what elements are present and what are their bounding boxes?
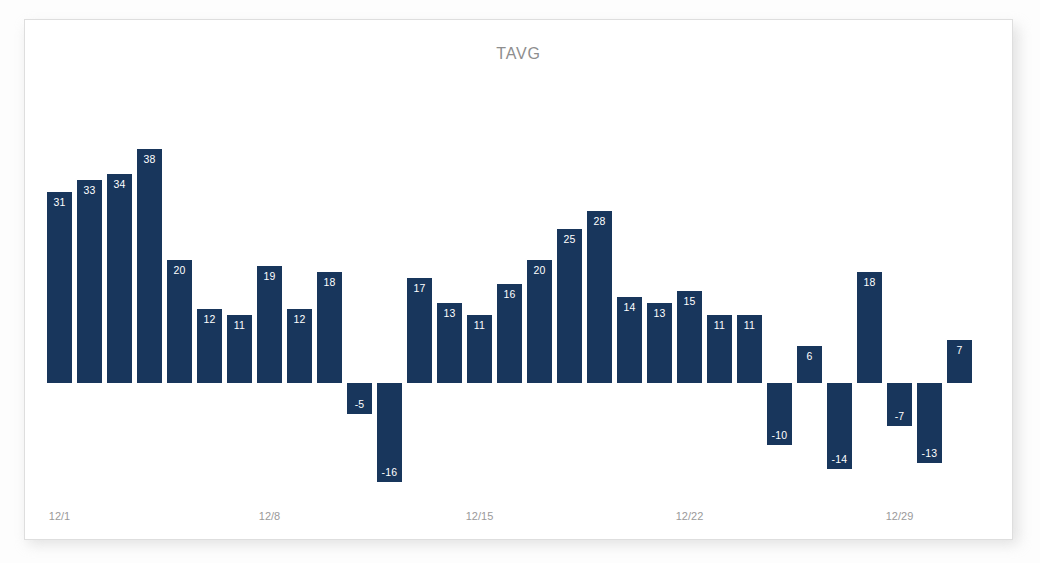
bar-value-label: 31: [47, 196, 72, 208]
bar-value-label: 38: [137, 153, 162, 165]
bar[interactable]: [77, 180, 102, 383]
bar-value-label: -16: [377, 466, 402, 478]
bar-value-label: 34: [107, 178, 132, 190]
bar[interactable]: [257, 266, 282, 383]
bar-value-label: 13: [647, 307, 672, 319]
bar-value-label: 25: [557, 233, 582, 245]
bar-value-label: 18: [857, 276, 882, 288]
bar-value-label: -7: [887, 410, 912, 422]
bar[interactable]: [557, 229, 582, 383]
bar-value-label: -10: [767, 429, 792, 441]
chart-card: TAVG 31333438201211191218-5-161713111620…: [24, 19, 1013, 540]
bar[interactable]: [107, 174, 132, 383]
screenshot-canvas: TAVG 31333438201211191218-5-161713111620…: [0, 0, 1040, 563]
bar-value-label: 28: [587, 215, 612, 227]
bar-value-label: 12: [197, 313, 222, 325]
bar-value-label: 11: [707, 319, 732, 331]
bar[interactable]: [47, 192, 72, 383]
bar-value-label: 6: [797, 350, 822, 362]
bar-value-label: -14: [827, 453, 852, 465]
bar-value-label: 7: [947, 344, 972, 356]
bar-value-label: 19: [257, 270, 282, 282]
bar-value-label: 16: [497, 288, 522, 300]
bar-value-label: -13: [917, 447, 942, 459]
bar[interactable]: [857, 272, 882, 383]
x-axis-tick-label: 12/8: [240, 510, 300, 522]
bar-chart-plot: 31333438201211191218-5-16171311162025281…: [25, 20, 1014, 541]
bar-value-label: 14: [617, 301, 642, 313]
bar-value-label: 15: [677, 295, 702, 307]
bar[interactable]: [167, 260, 192, 383]
bar-value-label: 13: [437, 307, 462, 319]
bar-value-label: 18: [317, 276, 342, 288]
bar-value-label: 33: [77, 184, 102, 196]
bar-value-label: 11: [467, 319, 492, 331]
bar-value-label: 11: [737, 319, 762, 331]
bar-value-label: 11: [227, 319, 252, 331]
bar-value-label: 17: [407, 282, 432, 294]
x-axis-tick-label: 12/1: [30, 510, 90, 522]
x-axis-tick-label: 12/15: [450, 510, 510, 522]
x-axis-tick-label: 12/22: [660, 510, 720, 522]
x-axis-tick-label: 12/29: [870, 510, 930, 522]
bar-value-label: 20: [167, 264, 192, 276]
bar[interactable]: [317, 272, 342, 383]
bar[interactable]: [527, 260, 552, 383]
bar-value-label: 12: [287, 313, 312, 325]
bar[interactable]: [587, 211, 612, 383]
bar[interactable]: [137, 149, 162, 383]
bar-value-label: 20: [527, 264, 552, 276]
bar-value-label: -5: [347, 398, 372, 410]
